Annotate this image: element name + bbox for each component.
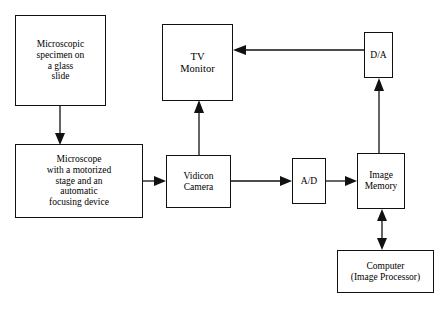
connector-microscope-to-vidicon: [143, 176, 166, 186]
node-microscopic-specimen: Microscopic specimen on a glass slide: [15, 15, 106, 106]
node-digital-to-analog-converter: D/A: [364, 32, 393, 78]
node-microscopic-specimen-label: Microscopic specimen on a glass slide: [35, 39, 87, 82]
node-vidicon-camera-label: Vidicon Camera: [181, 171, 215, 192]
node-microscope-label: Microscope with a motorized stage and an…: [45, 154, 113, 207]
node-tv-monitor-label: TV Monitor: [178, 51, 216, 75]
node-digital-to-analog-converter-label: D/A: [368, 50, 388, 61]
node-microscope: Microscope with a motorized stage and an…: [15, 144, 143, 218]
connector-ad-to-memory: [326, 176, 357, 186]
node-vidicon-camera: Vidicon Camera: [166, 155, 231, 208]
connector-specimen-to-microscope: [55, 106, 65, 145]
connector-memory-to-da: [374, 78, 384, 153]
node-computer-image-processor-label: Computer (Image Processor): [349, 261, 422, 282]
connector-da-to-tv-monitor: [233, 45, 364, 55]
node-computer-image-processor: Computer (Image Processor): [337, 250, 434, 293]
node-image-memory-label: Image Memory: [363, 170, 400, 191]
node-image-memory: Image Memory: [357, 153, 405, 209]
connector-vidicon-to-tv-monitor: [194, 100, 204, 155]
node-tv-monitor: TV Monitor: [162, 24, 233, 101]
node-analog-to-digital-converter: A/D: [292, 158, 326, 204]
block-diagram-canvas: Microscopic specimen on a glass slide Mi…: [0, 0, 444, 313]
connector-memory-computer-bidirectional: [377, 209, 387, 250]
connector-vidicon-to-ad: [231, 176, 292, 186]
node-analog-to-digital-converter-label: A/D: [299, 176, 319, 187]
